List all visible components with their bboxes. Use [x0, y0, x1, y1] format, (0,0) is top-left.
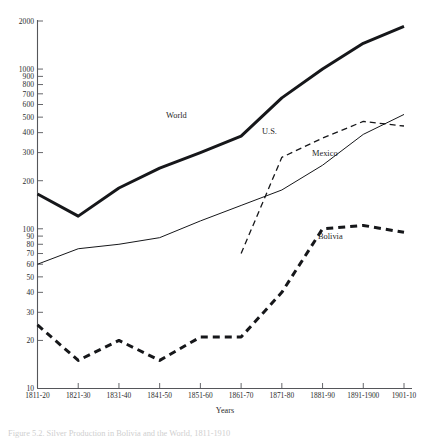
x-tick-label: 1831-40 — [107, 391, 132, 400]
y-tick-label: 70 — [26, 249, 34, 258]
x-tick-label: 1861-70 — [229, 391, 254, 400]
y-tick-label: 80 — [26, 240, 34, 249]
series-line-world — [38, 26, 405, 216]
x-tick-label: 1881-90 — [310, 391, 335, 400]
series-label-us: U.S. — [262, 127, 277, 136]
y-tick-label: 30 — [26, 308, 34, 317]
x-axis-title: Years — [216, 406, 234, 415]
data-series-group — [38, 26, 405, 360]
y-tick-label: 600 — [23, 100, 35, 109]
y-tick-label: 400 — [23, 128, 35, 137]
y-tick-label: 700 — [23, 90, 35, 99]
y-tick-label: 500 — [23, 113, 35, 122]
y-tick-label: 300 — [23, 148, 35, 157]
series-label-bolivia: Bolivia — [318, 232, 343, 241]
y-axis-ticks — [38, 21, 44, 389]
series-label-mexico: Mexico — [312, 149, 338, 158]
x-axis-ticks — [38, 383, 405, 389]
series-line-bolivia — [38, 225, 405, 360]
x-axis-tick-labels: 1811-201821-301831-401841-501851-601861-… — [25, 391, 416, 400]
y-axis-tick-labels: 2000100090080070060050040030020010090807… — [19, 17, 34, 394]
y-tick-label: 20 — [26, 336, 34, 345]
x-tick-label: 1901-10 — [392, 391, 417, 400]
figure-caption: Figure 5.2. Silver Production in Bolivia… — [8, 429, 413, 438]
x-tick-label: 1891-1900 — [347, 391, 379, 400]
x-tick-label: 1871-80 — [270, 391, 295, 400]
x-tick-label: 1811-20 — [25, 391, 50, 400]
y-tick-label: 200 — [23, 177, 35, 186]
y-tick-label: 40 — [26, 288, 34, 297]
x-tick-label: 1821-30 — [66, 391, 91, 400]
y-tick-label: 60 — [26, 260, 34, 269]
x-tick-label: 1851-60 — [188, 391, 213, 400]
series-label-world: World — [166, 111, 188, 120]
series-line-mexico — [38, 114, 405, 264]
x-tick-label: 1841-50 — [147, 391, 172, 400]
y-tick-label: 2000 — [19, 17, 34, 26]
y-tick-label: 800 — [23, 80, 35, 89]
y-tick-label: 50 — [26, 273, 34, 282]
